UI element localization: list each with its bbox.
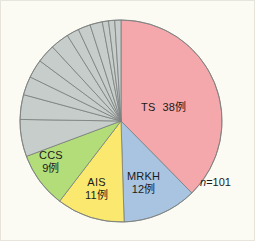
slice-label-ccs: CCS 9例	[39, 149, 63, 175]
slice-label-mrkh-name: MRKH	[127, 170, 160, 183]
slice-label-ais-value: 11例	[85, 189, 108, 202]
pie-chart-canvas	[1, 1, 255, 241]
slice-label-ts: TS38例	[141, 101, 186, 114]
slice-label-ts-name: TS	[141, 101, 155, 113]
slice-label-ccs-name: CCS	[39, 149, 63, 162]
slice-label-ais: AIS 11例	[85, 176, 108, 202]
pie-chart-figure: TS38例 MRKH 12例 AIS 11例 CCS 9例 n=101	[0, 0, 255, 241]
total-count-value: =101	[206, 176, 231, 188]
slice-label-mrkh: MRKH 12例	[127, 170, 160, 196]
slice-label-ts-value: 38例	[162, 101, 186, 113]
slice-label-mrkh-value: 12例	[127, 183, 160, 196]
slice-label-ccs-value: 9例	[39, 162, 63, 175]
total-count-annotation: n=101	[200, 176, 231, 188]
slice-label-ais-name: AIS	[85, 176, 108, 189]
pie-slice-group	[1, 1, 255, 241]
